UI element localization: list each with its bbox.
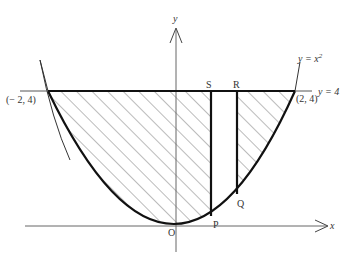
label-line-y4: y = 4 — [317, 86, 339, 97]
label-R: R — [233, 79, 240, 90]
label-origin: O — [168, 227, 175, 238]
parabola-curve-extension-right — [295, 62, 300, 91]
label-right-intersection: (2, 4) — [296, 93, 318, 105]
label-Q: Q — [237, 198, 245, 209]
label-S: S — [206, 79, 212, 90]
label-y-axis: y — [172, 13, 178, 24]
parabola-curve-extension-left — [40, 60, 48, 91]
label-curve: y = x2 — [297, 52, 323, 64]
parabola-region-diagram: (− 2, 4) (2, 4) y = 4 y = x2 S R P Q O x… — [0, 0, 357, 261]
label-x-axis: x — [329, 220, 335, 231]
label-P: P — [213, 219, 219, 230]
label-left-intersection: (− 2, 4) — [6, 94, 36, 106]
